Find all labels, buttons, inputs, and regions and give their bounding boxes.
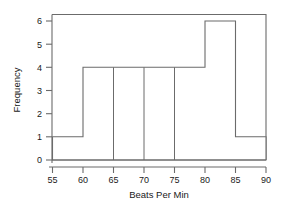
- y-tick-label: 6: [37, 16, 42, 26]
- x-tick-label: 65: [108, 175, 118, 185]
- y-tick-label: 1: [37, 132, 42, 142]
- y-axis-title: Frequency: [11, 67, 22, 112]
- x-tick-label: 80: [200, 175, 210, 185]
- x-tick-label: 55: [47, 175, 57, 185]
- y-tick-label: 3: [37, 86, 42, 96]
- x-tick-label: 60: [78, 175, 88, 185]
- y-tick-label: 5: [37, 40, 42, 50]
- histogram-bars-outline: [53, 21, 267, 160]
- x-axis-tick-labels: 55 60 65 70 75 80 85 90: [47, 175, 271, 185]
- x-axis-title: Beats Per Min: [129, 189, 189, 200]
- y-tick-label: 0: [37, 155, 42, 165]
- histogram-plot: 0 1 2 3 4 5 6 Frequency: [0, 0, 287, 211]
- y-tick-label: 2: [37, 109, 42, 119]
- x-tick-label: 90: [261, 175, 271, 185]
- y-tick-label: 4: [37, 63, 42, 73]
- x-tick-label: 75: [169, 175, 179, 185]
- x-axis-ticks: [53, 167, 267, 173]
- histogram-figure: 0 1 2 3 4 5 6 Frequency: [0, 0, 287, 211]
- y-axis-tick-labels: 0 1 2 3 4 5 6: [37, 16, 42, 165]
- x-tick-label: 85: [230, 175, 240, 185]
- x-tick-label: 70: [139, 175, 149, 185]
- y-axis-ticks: [46, 21, 52, 160]
